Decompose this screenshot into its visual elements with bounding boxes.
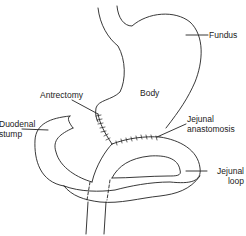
efferent-limb-left	[86, 202, 88, 234]
greater-curvature	[117, 6, 201, 128]
label-jejunal-anastomosis-2: anastomosis	[187, 124, 235, 134]
label-body: Body	[140, 88, 159, 98]
antrectomy-suture-line	[98, 114, 112, 144]
duodenal-stump-outer	[35, 116, 70, 186]
jejunal-loop-outer	[64, 137, 200, 191]
jejunal-loop-bottom	[64, 176, 200, 202]
antrectomy-leader	[72, 100, 98, 114]
anastomosis-leader	[157, 124, 186, 137]
anastomosis-suture-line	[112, 137, 160, 144]
duodenal-stump-top	[68, 116, 73, 128]
efferent-limb-dash-right	[107, 180, 110, 200]
jejunal-loop-inner-top	[92, 144, 112, 182]
label-antrectomy: Antrectomy	[40, 90, 83, 100]
duodenal-stump-inner	[55, 128, 92, 182]
label-jejunal-anastomosis-1: Jejunal	[187, 114, 214, 124]
label-duodenal-stump-1: Duodenal	[0, 119, 35, 129]
jejunal-loop-inner	[112, 156, 180, 178]
label-jejunal-loop-1: Jejunal	[208, 166, 244, 176]
efferent-limb-right	[104, 202, 106, 234]
duodenal-stump-leader	[22, 129, 48, 130]
lesser-curvature	[96, 8, 125, 122]
label-fundus: Fundus	[209, 30, 237, 40]
label-jejunal-loop-2: loop	[208, 176, 244, 186]
label-duodenal-stump-2: stump	[0, 129, 22, 139]
